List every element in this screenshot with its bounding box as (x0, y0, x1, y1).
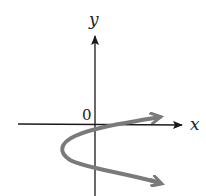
parabola-curve-lower-end (150, 180, 161, 184)
coordinate-diagram: x y 0 (0, 0, 206, 196)
origin-label: 0 (82, 106, 92, 124)
x-axis (18, 124, 182, 125)
y-axis-label: y (88, 9, 99, 29)
parabola-curve (62, 117, 160, 183)
x-axis-label: x (190, 114, 200, 134)
